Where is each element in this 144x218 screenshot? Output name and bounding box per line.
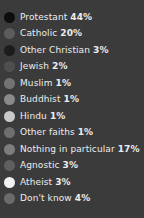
- legend-item-value: 17%: [118, 144, 140, 155]
- legend-item-label: Atheist: [20, 177, 52, 188]
- legend-item-label: Agnostic: [20, 160, 60, 171]
- legend-item-label: Muslim: [20, 78, 53, 89]
- legend-item-label: Catholic: [20, 28, 57, 39]
- legend-item-label: Other Christian: [20, 45, 90, 56]
- legend-item[interactable]: Nothing in particular 17%: [0, 141, 144, 158]
- legend-swatch-icon: [4, 12, 15, 23]
- legend-item[interactable]: Hindu 1%: [0, 108, 144, 125]
- legend-swatch-icon: [4, 144, 15, 155]
- legend-item[interactable]: Jewish 2%: [0, 59, 144, 76]
- legend-swatch-icon: [4, 160, 15, 171]
- legend-swatch-icon: [4, 111, 15, 122]
- legend-item-label: Jewish: [20, 61, 49, 72]
- legend-item-value: 4%: [75, 193, 90, 204]
- legend-item-value: 3%: [63, 160, 78, 171]
- legend-swatch-icon: [4, 45, 15, 56]
- legend-item-value: 44%: [70, 12, 92, 23]
- legend-item-label: Protestant: [20, 12, 67, 23]
- legend-item-value: 1%: [56, 78, 71, 89]
- legend-swatch-icon: [4, 177, 15, 188]
- legend-item-value: 1%: [64, 94, 79, 105]
- legend-item-value: 3%: [93, 45, 108, 56]
- legend-item[interactable]: Buddhist 1%: [0, 92, 144, 109]
- legend-swatch-icon: [4, 61, 15, 72]
- legend-item[interactable]: Protestant 44%: [0, 9, 144, 26]
- legend-item-value: 1%: [50, 111, 65, 122]
- legend-item[interactable]: Don't know 4%: [0, 191, 144, 208]
- legend-item-value: 20%: [60, 28, 82, 39]
- legend-item-label: Hindu: [20, 111, 47, 122]
- legend-swatch-icon: [4, 94, 15, 105]
- legend-item-label: Buddhist: [20, 94, 61, 105]
- legend-swatch-icon: [4, 193, 15, 204]
- legend-item[interactable]: Other Christian 3%: [0, 42, 144, 59]
- legend-item-label: Other faiths: [20, 127, 75, 138]
- legend-item-label: Don't know: [20, 193, 72, 204]
- legend-swatch-icon: [4, 127, 15, 138]
- legend-item-value: 3%: [55, 177, 70, 188]
- legend-item-value: 1%: [78, 127, 93, 138]
- legend-item[interactable]: Agnostic 3%: [0, 158, 144, 175]
- legend-item[interactable]: Atheist 3%: [0, 174, 144, 191]
- legend-swatch-icon: [4, 28, 15, 39]
- legend-item-label: Nothing in particular: [20, 144, 115, 155]
- legend-swatch-icon: [4, 78, 15, 89]
- legend-item-value: 2%: [52, 61, 67, 72]
- legend-item[interactable]: Catholic 20%: [0, 26, 144, 43]
- legend-item[interactable]: Muslim 1%: [0, 75, 144, 92]
- chart-legend: Protestant 44% Catholic 20% Other Christ…: [0, 0, 144, 218]
- legend-item[interactable]: Other faiths 1%: [0, 125, 144, 142]
